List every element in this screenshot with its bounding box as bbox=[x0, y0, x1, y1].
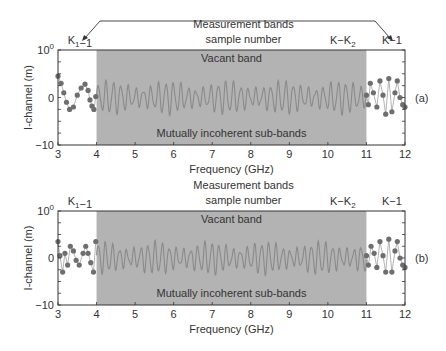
vacant-band-label: Vacant band bbox=[201, 213, 262, 225]
sample-point bbox=[389, 270, 394, 275]
sample-point bbox=[395, 239, 400, 244]
y-tick-label: 100 bbox=[37, 203, 54, 217]
title-measurement-bands: Measurement bands bbox=[193, 18, 294, 30]
x-tick-label: 11 bbox=[361, 308, 372, 320]
sample-point bbox=[58, 81, 63, 86]
sample-point bbox=[366, 262, 371, 267]
sample-point bbox=[79, 85, 84, 90]
sample-point bbox=[77, 262, 82, 267]
sample-point bbox=[65, 262, 70, 267]
sample-point bbox=[61, 90, 66, 95]
sample-point bbox=[85, 251, 90, 256]
x-tick-label: 12 bbox=[399, 308, 411, 320]
sample-point bbox=[380, 93, 385, 98]
sample-point bbox=[83, 244, 88, 249]
sample-point bbox=[383, 270, 388, 275]
sample-point bbox=[386, 237, 391, 242]
x-tick-label: 7 bbox=[209, 148, 215, 160]
sample-point bbox=[93, 94, 98, 99]
x-axis-label: Frequency (GHz) bbox=[189, 323, 273, 335]
x-tick-label: 7 bbox=[209, 308, 215, 320]
sample-point bbox=[371, 90, 376, 95]
x-tick-label: 12 bbox=[399, 148, 411, 160]
incoherent-subbands-label: Mutually incoherent sub-bands bbox=[157, 287, 307, 299]
x-tick-label: 10 bbox=[322, 148, 334, 160]
sample-point bbox=[88, 260, 93, 265]
sample-point bbox=[91, 107, 96, 112]
sample-point bbox=[71, 104, 76, 109]
sample-point bbox=[368, 244, 373, 249]
sample-point bbox=[389, 109, 394, 114]
bracket-line-left bbox=[85, 21, 100, 38]
y-tick-label: 100 bbox=[37, 42, 54, 56]
sample-point bbox=[87, 97, 92, 102]
sample-point bbox=[71, 248, 76, 253]
sample-point bbox=[392, 248, 397, 253]
panel-label: (b) bbox=[415, 252, 428, 264]
y-axis-label: I-channel (m) bbox=[22, 226, 34, 291]
x-tick-label: 4 bbox=[93, 308, 99, 320]
k1-minus-1-label: K1−1 bbox=[68, 195, 92, 210]
x-tick-label: 11 bbox=[361, 148, 372, 160]
x-axis-label: Frequency (GHz) bbox=[189, 163, 273, 175]
sample-point bbox=[377, 239, 382, 244]
y-tick-label: 0 bbox=[48, 92, 54, 104]
sample-connector bbox=[58, 242, 96, 273]
sample-point bbox=[364, 253, 369, 258]
x-tick-label: 4 bbox=[93, 148, 99, 160]
sample-point bbox=[62, 251, 67, 256]
sample-point bbox=[64, 100, 69, 105]
x-tick-label: 3 bbox=[55, 148, 61, 160]
y-tick-label: 0 bbox=[48, 252, 54, 264]
k-minus-k2-label: K−K2 bbox=[330, 34, 356, 49]
sample-point bbox=[80, 251, 85, 256]
x-tick-label: 8 bbox=[248, 308, 254, 320]
x-tick-label: 9 bbox=[286, 148, 292, 160]
k-minus-1-label: K−1 bbox=[382, 195, 402, 207]
x-tick-label: 3 bbox=[55, 308, 61, 320]
panel-a: 1000−103456789101112Frequency (GHz)I-cha… bbox=[22, 18, 428, 175]
sample-point bbox=[395, 78, 400, 83]
sample-point bbox=[386, 76, 391, 81]
sample-point bbox=[75, 93, 80, 98]
y-tick-label: −10 bbox=[35, 139, 54, 151]
sample-point bbox=[377, 78, 382, 83]
sample-point bbox=[372, 251, 377, 256]
sample-point bbox=[397, 255, 402, 260]
figure: 1000−103456789101112Frequency (GHz)I-cha… bbox=[0, 0, 446, 351]
x-tick-label: 10 bbox=[322, 308, 334, 320]
incoherent-subbands-label: Mutually incoherent sub-bands bbox=[157, 127, 307, 139]
sample-point bbox=[85, 88, 90, 93]
sample-point bbox=[374, 104, 379, 109]
sample-point bbox=[397, 95, 402, 100]
x-tick-label: 5 bbox=[132, 308, 138, 320]
sample-point bbox=[93, 239, 98, 244]
title-sample-number: sample number bbox=[206, 194, 282, 206]
sample-point bbox=[366, 102, 371, 107]
sample-point bbox=[374, 265, 379, 270]
sample-point bbox=[383, 112, 388, 117]
sample-point bbox=[380, 253, 385, 258]
vacant-band-label: Vacant band bbox=[201, 52, 262, 64]
x-tick-label: 9 bbox=[286, 308, 292, 320]
sample-point bbox=[364, 93, 369, 98]
sample-point bbox=[82, 82, 87, 87]
x-tick-label: 5 bbox=[132, 148, 138, 160]
x-tick-label: 6 bbox=[171, 148, 177, 160]
sample-point bbox=[392, 90, 397, 95]
sample-point bbox=[91, 270, 96, 275]
panel-label: (a) bbox=[415, 92, 428, 104]
y-axis-label: I-channel (m) bbox=[22, 65, 34, 130]
title-sample-number: sample number bbox=[206, 33, 282, 45]
k-minus-k2-label: K−K2 bbox=[330, 195, 356, 210]
panel-b: 1000−103456789101112Frequency (GHz)I-cha… bbox=[22, 179, 428, 335]
sample-point bbox=[368, 81, 373, 86]
sample-point bbox=[60, 270, 65, 275]
sample-point bbox=[68, 244, 73, 249]
y-tick-label: −10 bbox=[35, 299, 54, 311]
title-measurement-bands: Measurement bands bbox=[193, 179, 294, 191]
sample-point bbox=[74, 258, 79, 263]
x-tick-label: 6 bbox=[171, 308, 177, 320]
k1-minus-1-label: K1−1 bbox=[68, 34, 92, 49]
x-tick-label: 8 bbox=[248, 148, 254, 160]
